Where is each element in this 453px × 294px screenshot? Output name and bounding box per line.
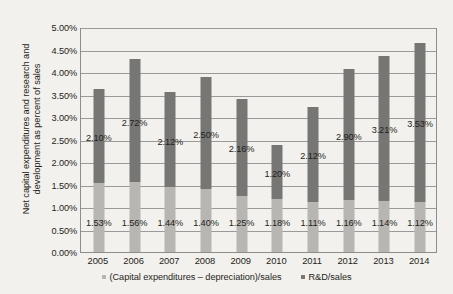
data-label-capex: 1.56% — [122, 218, 148, 228]
x-axis-tick-label: 2013 — [366, 255, 402, 266]
x-axis-tick-label: 2008 — [187, 255, 223, 266]
data-label-capex: 1.12% — [407, 218, 433, 228]
bar-segment-capex[interactable] — [129, 182, 140, 252]
y-axis-title-line-1: Net capital expenditures and research an… — [21, 13, 32, 245]
data-label-rnd: 2.10% — [86, 133, 112, 143]
data-label-rnd: 2.12% — [300, 151, 326, 161]
x-axis-tick-label: 2009 — [223, 255, 259, 266]
data-label-rnd: 3.21% — [372, 125, 398, 135]
data-label-capex: 1.44% — [157, 218, 183, 228]
y-axis-tick-label: 4.50% — [51, 46, 77, 56]
y-axis-tick-label: 0.00% — [51, 248, 77, 258]
y-axis-tick-label: 2.50% — [51, 136, 77, 146]
data-label-rnd: 2.50% — [193, 130, 219, 140]
data-label-capex: 1.11% — [301, 218, 326, 228]
x-axis-tick-label: 2011 — [294, 255, 330, 266]
y-axis-tick-label: 5.00% — [51, 23, 77, 33]
y-axis-tick-label: 1.50% — [51, 181, 77, 191]
legend-label: R&D/sales — [309, 272, 352, 282]
x-axis-tick-label: 2010 — [259, 255, 295, 266]
data-label-rnd: 2.12% — [157, 137, 183, 147]
x-axis-tick-label: 2006 — [116, 255, 152, 266]
data-label-rnd: 1.20% — [265, 169, 291, 179]
legend-swatch-icon — [102, 275, 106, 279]
stacked-bar-chart: Net capital expenditures and research an… — [0, 0, 453, 294]
y-axis-tick-label: 4.00% — [51, 68, 77, 78]
legend-label: (Capital expenditures – depreciation)/sa… — [110, 272, 282, 282]
legend-swatch-icon — [301, 275, 305, 279]
data-label-capex: 1.14% — [372, 218, 398, 228]
y-axis-tick-label: 1.00% — [51, 203, 77, 213]
legend-item[interactable]: (Capital expenditures – depreciation)/sa… — [102, 272, 282, 282]
y-axis-tick-label: 0.50% — [51, 226, 77, 236]
x-axis-tick-label: 2005 — [80, 255, 116, 266]
data-label-rnd: 2.72% — [122, 118, 148, 128]
data-label-rnd: 2.90% — [336, 132, 362, 142]
data-label-capex: 1.18% — [265, 218, 291, 228]
y-axis-tick-label: 3.50% — [51, 91, 77, 101]
data-label-rnd: 2.16% — [229, 144, 255, 154]
y-axis-tick-label: 2.00% — [51, 158, 77, 168]
x-axis-tick-label: 2014 — [401, 255, 437, 266]
x-axis-tick-label: 2012 — [330, 255, 366, 266]
plot-area: 1.53%2.10%1.56%2.72%1.44%2.12%1.40%2.50%… — [80, 28, 437, 253]
data-label-capex: 1.16% — [336, 218, 362, 228]
data-label-capex: 1.40% — [193, 218, 219, 228]
data-label-capex: 1.25% — [229, 218, 255, 228]
x-axis-tick-label: 2007 — [151, 255, 187, 266]
y-axis-tick-label: 3.00% — [51, 113, 77, 123]
data-label-capex: 1.53% — [86, 218, 112, 228]
chart-legend: (Capital expenditures – depreciation)/sa… — [0, 272, 453, 282]
data-label-rnd: 3.53% — [407, 119, 433, 129]
y-axis-tick-labels: 0.00%0.50%1.00%1.50%2.00%2.50%3.00%3.50%… — [36, 28, 80, 253]
legend-item[interactable]: R&D/sales — [301, 272, 352, 282]
x-axis-tick-labels: 2005200620072008200920102011201220132014 — [80, 255, 437, 271]
